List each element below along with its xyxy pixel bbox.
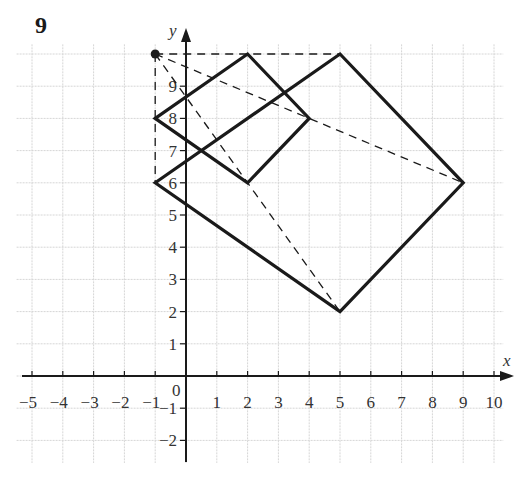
x-tick-label: 4 <box>305 393 314 412</box>
small-square <box>155 54 309 183</box>
x-axis-label: x <box>502 351 511 370</box>
y-axis-label: y <box>167 21 177 40</box>
x-tick-label: −4 <box>50 393 69 412</box>
center-point-dot <box>151 50 160 59</box>
y-axis-arrow-icon <box>181 28 191 42</box>
y-tick-label: 3 <box>169 270 178 289</box>
x-tick-label: 6 <box>367 393 376 412</box>
x-tick-label: 3 <box>274 393 283 412</box>
x-tick-label: 7 <box>397 393 406 412</box>
x-tick-label: 9 <box>459 393 468 412</box>
y-tick-label: 7 <box>169 142 178 161</box>
y-tick-label: 8 <box>169 109 178 128</box>
x-tick-label: 2 <box>243 393 252 412</box>
y-tick-label: 5 <box>169 206 178 225</box>
y-tick-label: 4 <box>169 238 178 257</box>
coordinate-diagram: −5−4−3−2−112345678910−2−11234567890xy <box>0 0 529 479</box>
x-tick-label: −3 <box>81 393 99 412</box>
x-axis-arrow-icon <box>500 371 514 381</box>
y-tick-label: 1 <box>169 335 178 354</box>
y-tick-label: −1 <box>159 399 177 418</box>
y-tick-label: −2 <box>159 431 177 450</box>
x-tick-label: 8 <box>428 393 437 412</box>
y-tick-label: 2 <box>169 303 178 322</box>
y-tick-label: 6 <box>169 174 178 193</box>
x-tick-label: 5 <box>336 393 345 412</box>
y-tick-label: 9 <box>169 77 178 96</box>
x-tick-label: −1 <box>142 393 160 412</box>
x-tick-label: −2 <box>111 393 129 412</box>
x-tick-label: 1 <box>213 393 222 412</box>
x-tick-label: 10 <box>486 393 503 412</box>
x-tick-label: −5 <box>19 393 37 412</box>
origin-label: 0 <box>172 381 181 400</box>
